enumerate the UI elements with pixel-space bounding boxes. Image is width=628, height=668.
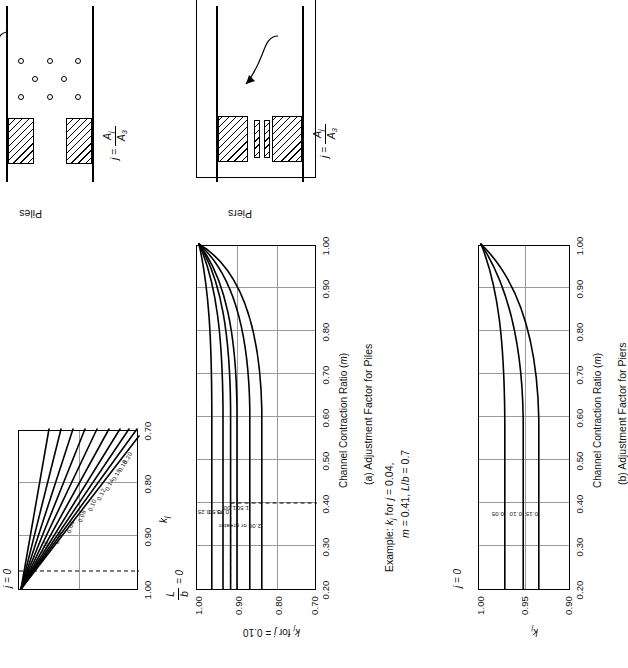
curve-label: 0.15 bbox=[526, 511, 538, 517]
gridline-vertical bbox=[479, 416, 569, 417]
axis-tick: 0.40 bbox=[574, 495, 585, 514]
gridline-vertical bbox=[479, 330, 569, 331]
gridline-vertical bbox=[479, 502, 569, 503]
axis-tick: 0.90 bbox=[563, 596, 574, 628]
axis-tick: 0.30 bbox=[574, 538, 585, 557]
axis-tick: 0.90 bbox=[574, 280, 585, 299]
curve-label: 0.10 bbox=[510, 511, 522, 517]
chart-b-x-axis-title: Channel Contraction Ratio (m) bbox=[592, 353, 603, 488]
chart-b-corner-note: j = 0 bbox=[452, 569, 463, 588]
gridline-vertical bbox=[479, 287, 569, 288]
gridline-vertical bbox=[479, 459, 569, 460]
axis-tick: 0.20 bbox=[574, 581, 585, 600]
gridline-vertical bbox=[479, 373, 569, 374]
chart-b-caption: (b) Adjustment Factor for Piers bbox=[616, 343, 628, 485]
axis-tick: 0.95 bbox=[519, 596, 530, 628]
chart-b-y-axis-title: kj bbox=[531, 625, 538, 638]
axis-tick: 1.00 bbox=[574, 237, 585, 256]
axis-tick: 0.70 bbox=[574, 366, 585, 385]
curve-label: 0.05 bbox=[492, 511, 504, 517]
axis-tick: 0.80 bbox=[574, 323, 585, 342]
chart-b-piers-curves bbox=[479, 244, 571, 589]
axis-tick: 1.00 bbox=[475, 596, 486, 628]
axis-tick: 0.60 bbox=[574, 409, 585, 428]
axis-tick: 0.50 bbox=[574, 452, 585, 471]
gridline-vertical bbox=[479, 545, 569, 546]
chart-b-plot-real: 0.05 0.10 0.15 bbox=[478, 245, 570, 590]
gridline-horizontal bbox=[525, 246, 526, 589]
